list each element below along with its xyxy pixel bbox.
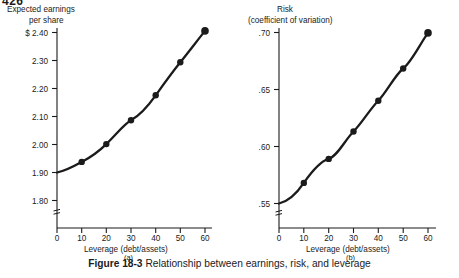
panel-b-xtick-20: 20 bbox=[320, 234, 338, 243]
panel-a-xtick-10: 10 bbox=[73, 234, 91, 243]
panel-b-xtick-30: 30 bbox=[345, 234, 363, 243]
panel-a-point-20 bbox=[103, 141, 109, 147]
panel-a-xtick-50: 50 bbox=[171, 234, 189, 243]
panel-b-point-60 bbox=[424, 29, 432, 37]
panel-b-point-30 bbox=[350, 128, 356, 134]
panel-a-xtick-60: 60 bbox=[196, 234, 214, 243]
panel-b-xtick-50: 50 bbox=[394, 234, 412, 243]
panel-b-xtick-40: 40 bbox=[369, 234, 387, 243]
panel-b-data-curve bbox=[279, 33, 428, 204]
panel-a-xtick-20: 20 bbox=[97, 234, 115, 243]
panel-a-plot bbox=[0, 0, 229, 250]
figure-caption: Figure 18-3 Relationship between earning… bbox=[0, 258, 459, 269]
figure-caption-label: Figure 18-3 bbox=[88, 258, 142, 269]
panel-a-xtick-30: 30 bbox=[122, 234, 140, 243]
panel-b-x-ticks bbox=[279, 228, 428, 233]
panel-b-xtick-10: 10 bbox=[295, 234, 313, 243]
panel-a-data-points bbox=[79, 27, 209, 165]
panel-b-point-20 bbox=[326, 156, 332, 162]
panel-b-xtick-60: 60 bbox=[419, 234, 437, 243]
chart-panel-b: Risk (coefficient of variation) .70 .65 … bbox=[228, 0, 457, 250]
panel-a-y-ticks bbox=[52, 33, 57, 201]
panel-b-point-50 bbox=[400, 65, 406, 71]
panel-a-point-60 bbox=[201, 27, 209, 35]
panel-a-point-30 bbox=[128, 117, 134, 123]
panel-b-point-10 bbox=[301, 180, 307, 186]
panel-b-y-ticks bbox=[274, 33, 279, 204]
panel-a-point-10 bbox=[79, 159, 85, 165]
panel-a-data-curve bbox=[57, 31, 205, 173]
panel-b-plot bbox=[228, 0, 457, 250]
panel-a-point-50 bbox=[177, 59, 183, 65]
panel-a-x-ticks bbox=[57, 228, 205, 233]
panel-a-xtick-0: 0 bbox=[48, 234, 66, 243]
panel-a-point-40 bbox=[153, 92, 159, 98]
panel-b-point-40 bbox=[375, 98, 381, 104]
figure-caption-text: Relationship between earnings, risk, and… bbox=[145, 258, 370, 269]
panel-b-xtick-0: 0 bbox=[270, 234, 288, 243]
figure-18-3: Expected earnings per share $ 2.40 2.30 … bbox=[0, 0, 459, 278]
chart-panel-a: Expected earnings per share $ 2.40 2.30 … bbox=[0, 0, 229, 250]
panel-a-xtick-40: 40 bbox=[147, 234, 165, 243]
